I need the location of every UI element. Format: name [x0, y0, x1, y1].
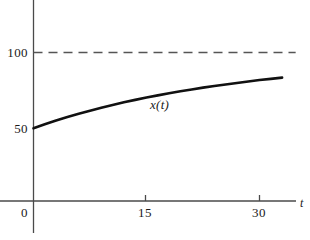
y-tick-label-50: 50 — [2, 121, 28, 137]
chart-canvas — [0, 0, 310, 240]
x-tick-label-15: 15 — [138, 205, 152, 221]
chart-figure: 100 50 0 15 30 t x(t) — [0, 0, 310, 240]
y-tick-label-100: 100 — [2, 45, 28, 61]
curve-annotation-label: x(t) — [150, 97, 169, 113]
x-tick-label-30: 30 — [252, 205, 266, 221]
x-axis-label: t — [300, 196, 303, 211]
x-tick-label-0: 0 — [21, 205, 28, 221]
